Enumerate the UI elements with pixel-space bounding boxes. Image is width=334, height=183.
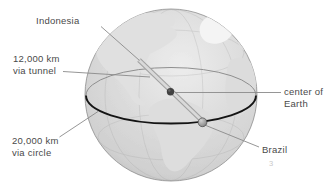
center-of-earth-line2: Earth <box>284 98 323 110</box>
tunnel-distance-label: 12,000 km via tunnel <box>13 53 60 76</box>
brazil-dot <box>198 118 207 127</box>
figure-canvas: Indonesia 12,000 km via tunnel 20,000 km… <box>0 0 334 183</box>
indonesia-label-text: Indonesia <box>36 15 79 26</box>
tunnel-distance-value: 12,000 km <box>13 53 60 65</box>
circle-distance-value: 20,000 km <box>12 135 59 147</box>
circle-distance-label: 20,000 km via circle <box>12 135 59 158</box>
circle-distance-caption: via circle <box>12 147 59 159</box>
tunnel-distance-caption: via tunnel <box>13 65 60 77</box>
center-of-earth-line1: center of <box>284 86 323 98</box>
stray-mark: 3 <box>269 158 273 170</box>
brazil-label: Brazil <box>262 144 287 156</box>
center-dot <box>167 88 174 95</box>
indonesia-label: Indonesia <box>36 15 79 27</box>
brazil-label-text: Brazil <box>262 144 287 155</box>
center-of-earth-label: center of Earth <box>284 86 323 109</box>
